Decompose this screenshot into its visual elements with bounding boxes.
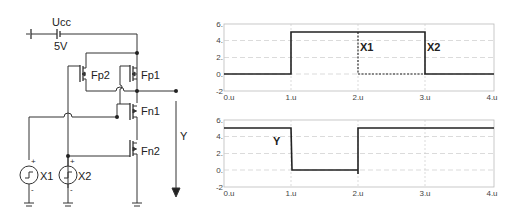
- battery-icon: [26, 29, 137, 39]
- y-tick: 2.: [216, 149, 223, 158]
- supply-name-label: Ucc: [52, 16, 71, 28]
- x-tick: 4.u: [486, 93, 497, 102]
- y-tick: 0.: [216, 166, 223, 175]
- y-tick: 0.: [216, 70, 223, 79]
- supply-value-label: 5V: [54, 40, 68, 52]
- fp1-label: Fp1: [141, 69, 160, 81]
- page-canvas: Ucc 5V Fp2 Fp1 Fn1 Fn2 X1 X2 + - + - Y X…: [0, 0, 520, 224]
- ground-icon: [24, 203, 142, 206]
- chart-output: Y 6. 4. 2. 0. -2 0.u 1.u 2.u 3.u 4.u: [216, 116, 498, 198]
- y-tick: 4.: [216, 36, 223, 45]
- y-tick: -2: [216, 183, 224, 192]
- x1-minus-label: -: [31, 185, 34, 194]
- x-tick: 2.u: [352, 93, 363, 102]
- y-tick: -2: [216, 87, 224, 96]
- x-tick: 0.u: [223, 93, 234, 102]
- x1-plus-label: +: [31, 157, 36, 166]
- output-arrow-icon: [172, 101, 180, 197]
- y-tick: 2.: [216, 53, 223, 62]
- annotation-y: Y: [273, 135, 281, 147]
- x1-label: X1: [40, 170, 53, 182]
- pulse-source-x1-icon: [20, 166, 38, 203]
- x-tick: 1.u: [285, 189, 296, 198]
- x2-plus-label: +: [70, 157, 75, 166]
- fp2-label: Fp2: [91, 69, 110, 81]
- x-tick: 0.u: [223, 189, 234, 198]
- pmos-fp1-icon: [120, 65, 137, 104]
- annotation-x1: X1: [360, 41, 373, 53]
- y-tick: 6.: [216, 20, 223, 29]
- y-tick: 4.: [216, 132, 223, 141]
- annotation-x2: X2: [427, 41, 440, 53]
- fn2-label: Fn2: [141, 145, 160, 157]
- x-tick: 2.u: [352, 189, 363, 198]
- fn1-label: Fn1: [141, 105, 160, 117]
- y-output-label: Y: [180, 130, 188, 142]
- chart-inputs: X1 X2 6. 4. 2. 0. -2 0.u 1.u 2.u 3.u 4.u: [216, 20, 498, 102]
- x-tick: 1.u: [285, 93, 296, 102]
- x-tick: 4.u: [486, 189, 497, 198]
- y-tick: 6.: [216, 116, 223, 125]
- x2-label: X2: [78, 170, 91, 182]
- x2-minus-label: -: [70, 185, 73, 194]
- x-tick: 3.u: [419, 189, 430, 198]
- x-tick: 3.u: [419, 93, 430, 102]
